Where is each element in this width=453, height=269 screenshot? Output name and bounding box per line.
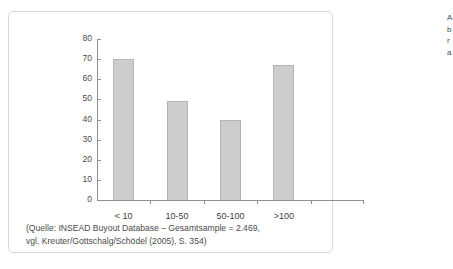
y-tick-mark xyxy=(97,120,101,121)
y-tick-label: 10 xyxy=(83,174,92,185)
bar xyxy=(273,65,294,200)
x-category-label: < 10 xyxy=(115,210,133,222)
bar-chart-plot-area: 01020304050607080 < 1010-5050-100>100 xyxy=(89,28,364,208)
y-tick-label: 20 xyxy=(83,154,92,165)
y-tick: 70 xyxy=(97,59,102,60)
y-tick: 60 xyxy=(97,79,102,80)
y-tick-label: 0 xyxy=(87,194,92,205)
y-tick-label: 80 xyxy=(83,33,92,44)
y-tick: 20 xyxy=(97,160,102,161)
figure-card: 01020304050607080 < 1010-5050-100>100 (Q… xyxy=(8,11,333,253)
y-tick-mark xyxy=(97,59,101,60)
y-tick: 0 xyxy=(97,200,102,201)
margin-note-line: b xyxy=(447,24,453,36)
y-tick-label: 50 xyxy=(83,93,92,104)
y-tick-mark xyxy=(97,140,101,141)
bar xyxy=(113,59,134,200)
x-axis-line xyxy=(97,200,364,201)
y-tick: 10 xyxy=(97,180,102,181)
x-tick-mark xyxy=(311,200,312,204)
x-category-label: 10-50 xyxy=(166,210,189,222)
source-caption: (Quelle: INSEAD Buyout Database – Gesamt… xyxy=(26,222,318,247)
bar xyxy=(220,120,241,201)
y-tick-mark xyxy=(97,200,101,201)
x-tick-mark xyxy=(363,200,364,204)
y-tick-label: 30 xyxy=(83,134,92,145)
y-tick-label: 70 xyxy=(83,53,92,64)
y-tick-mark xyxy=(97,180,101,181)
margin-note-line: r xyxy=(447,35,453,47)
bar xyxy=(167,101,188,200)
margin-note-line: a xyxy=(447,47,453,59)
margin-note-line: A xyxy=(447,12,453,24)
x-tick-mark xyxy=(150,200,151,204)
y-tick-mark xyxy=(97,79,101,80)
x-category-label: 50-100 xyxy=(216,210,244,222)
y-tick-label: 60 xyxy=(83,73,92,84)
y-tick-mark xyxy=(97,99,101,100)
y-tick: 50 xyxy=(97,99,102,100)
y-tick-mark xyxy=(97,160,101,161)
y-tick: 30 xyxy=(97,140,102,141)
x-tick-mark xyxy=(257,200,258,204)
x-category-label: >100 xyxy=(274,210,294,222)
margin-note-cutoff: Abra xyxy=(447,12,453,58)
source-caption-line-2: vgl. Kreuter/Gottschalg/Schödel (2005), … xyxy=(26,235,318,248)
y-tick: 80 xyxy=(97,39,102,40)
y-tick: 40 xyxy=(97,120,102,121)
y-tick-mark xyxy=(97,39,101,40)
x-tick-mark xyxy=(204,200,205,204)
y-tick-label: 40 xyxy=(83,114,92,125)
source-caption-line-1: (Quelle: INSEAD Buyout Database – Gesamt… xyxy=(26,222,318,235)
